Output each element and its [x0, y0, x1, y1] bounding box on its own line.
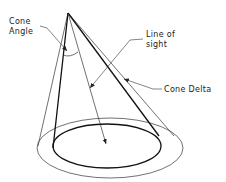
cone-angle-label-line2: Angle [9, 27, 33, 36]
cone-delta-leader [124, 79, 162, 89]
cone-angle-leader [40, 26, 67, 51]
line-of-sight-axis [68, 13, 106, 144]
cone-diagram: Cone Angle Line of sight Cone Delta [0, 0, 226, 182]
inner-cone [53, 13, 161, 168]
cone-angle-arc [63, 52, 78, 56]
line-of-sight-label-line1: Line of [146, 30, 175, 39]
line-of-sight-label-line2: sight [146, 40, 167, 49]
line-of-sight-leader [90, 39, 143, 88]
cone-delta-label: Cone Delta [164, 85, 211, 94]
cone-angle-label-line1: Cone [9, 17, 31, 26]
